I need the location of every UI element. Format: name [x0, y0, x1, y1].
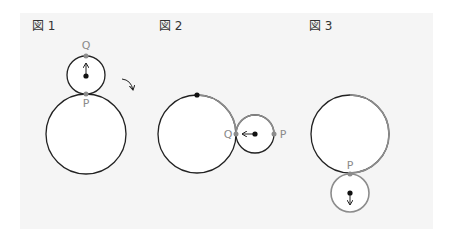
figure-1-label: 図 1	[32, 19, 55, 33]
figure-2-label: 図 2	[159, 19, 182, 33]
point-q	[84, 54, 89, 59]
figure-3: 図 3 P	[309, 19, 389, 212]
point-p-label: P	[347, 159, 354, 172]
figure-1: 図 1 Q P	[32, 19, 133, 174]
figure-2: 図 2 Q P	[158, 19, 287, 173]
point-q-label: Q	[224, 128, 233, 141]
point-p-label: P	[83, 97, 90, 110]
point-q-label: Q	[82, 39, 91, 52]
center-dot	[347, 190, 352, 195]
point-q	[234, 132, 239, 137]
point-p	[348, 172, 353, 177]
point-p	[84, 92, 89, 97]
figure-3-label: 図 3	[309, 19, 332, 33]
center-dot	[83, 73, 88, 78]
center-dot	[252, 131, 257, 136]
point-p-label: P	[280, 128, 287, 141]
diagram-canvas: 図 1 Q P 図 2 Q P 図 3 P	[0, 0, 453, 242]
top-dot	[194, 92, 199, 97]
clockwise-rotation-arrow-icon	[122, 79, 133, 90]
point-p	[272, 132, 277, 137]
